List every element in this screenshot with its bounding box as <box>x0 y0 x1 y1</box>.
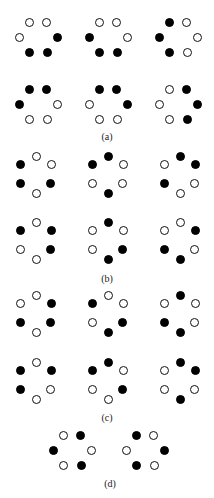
open-circle-icon <box>119 366 128 375</box>
open-circle-icon <box>32 189 41 198</box>
filled-circle-icon <box>95 85 104 94</box>
filled-circle-icon <box>165 48 174 57</box>
open-circle-icon <box>119 299 128 308</box>
filled-circle-icon <box>104 328 113 337</box>
open-circle-icon <box>149 431 158 440</box>
filled-circle-icon <box>113 48 122 57</box>
filled-circle-icon <box>193 100 202 109</box>
open-circle-icon <box>182 18 191 27</box>
filled-circle-icon <box>155 33 164 42</box>
filled-circle-icon <box>160 318 169 327</box>
filled-circle-icon <box>176 358 185 367</box>
filled-circle-icon <box>118 385 127 394</box>
open-circle-icon <box>32 358 41 367</box>
filled-circle-icon <box>165 18 174 27</box>
filled-circle-icon <box>43 48 52 57</box>
filled-circle-icon <box>104 189 113 198</box>
open-circle-icon <box>59 431 68 440</box>
filled-circle-icon <box>191 226 200 235</box>
filled-circle-icon <box>176 328 185 337</box>
group-label: (d) <box>104 478 116 489</box>
open-circle-icon <box>95 18 104 27</box>
filled-circle-icon <box>118 318 127 327</box>
open-circle-icon <box>88 245 97 254</box>
open-circle-icon <box>119 226 128 235</box>
filled-circle-icon <box>25 85 34 94</box>
open-circle-icon <box>123 33 132 42</box>
open-circle-icon <box>32 291 41 300</box>
open-circle-icon <box>32 255 41 264</box>
open-circle-icon <box>160 385 169 394</box>
group-label: (a) <box>101 131 112 142</box>
open-circle-icon <box>190 385 199 394</box>
filled-circle-icon <box>88 160 97 169</box>
filled-circle-icon <box>47 226 56 235</box>
filled-circle-icon <box>112 85 121 94</box>
open-circle-icon <box>165 115 174 124</box>
open-circle-icon <box>118 179 127 188</box>
filled-circle-icon <box>104 358 113 367</box>
figure-canvas: (a)(b)(c)(d) <box>0 0 214 498</box>
filled-circle-icon <box>182 85 191 94</box>
filled-circle-icon <box>47 299 56 308</box>
filled-circle-icon <box>85 33 94 42</box>
open-circle-icon <box>25 18 34 27</box>
open-circle-icon <box>160 366 169 375</box>
filled-circle-icon <box>15 100 24 109</box>
filled-circle-icon <box>16 226 25 235</box>
filled-circle-icon <box>95 48 104 57</box>
open-circle-icon <box>47 160 56 169</box>
filled-circle-icon <box>16 318 25 327</box>
filled-circle-icon <box>176 395 185 404</box>
open-circle-icon <box>59 461 68 470</box>
open-circle-icon <box>165 85 174 94</box>
filled-circle-icon <box>46 318 55 327</box>
open-circle-icon <box>183 48 192 57</box>
filled-circle-icon <box>88 299 97 308</box>
filled-circle-icon <box>46 245 55 254</box>
filled-circle-icon <box>16 385 25 394</box>
open-circle-icon <box>191 299 200 308</box>
open-circle-icon <box>88 226 97 235</box>
open-circle-icon <box>119 160 128 169</box>
open-circle-icon <box>150 461 159 470</box>
filled-circle-icon <box>46 179 55 188</box>
group-label: (b) <box>101 273 113 284</box>
filled-circle-icon <box>160 179 169 188</box>
open-circle-icon <box>88 318 97 327</box>
filled-circle-icon <box>132 431 141 440</box>
open-circle-icon <box>176 189 185 198</box>
filled-circle-icon <box>191 160 200 169</box>
open-circle-icon <box>16 299 25 308</box>
open-circle-icon <box>15 33 24 42</box>
filled-circle-icon <box>53 33 62 42</box>
filled-circle-icon <box>49 446 58 455</box>
filled-circle-icon <box>104 255 113 264</box>
open-circle-icon <box>85 100 94 109</box>
open-circle-icon <box>112 18 121 27</box>
open-circle-icon <box>88 385 97 394</box>
filled-circle-icon <box>88 366 97 375</box>
filled-circle-icon <box>160 245 169 254</box>
filled-circle-icon <box>132 461 141 470</box>
open-circle-icon <box>104 395 113 404</box>
filled-circle-icon <box>76 431 85 440</box>
open-circle-icon <box>87 446 96 455</box>
group-label: (c) <box>101 412 112 423</box>
filled-circle-icon <box>104 218 113 227</box>
filled-circle-icon <box>16 366 25 375</box>
filled-circle-icon <box>104 152 113 161</box>
open-circle-icon <box>32 395 41 404</box>
open-circle-icon <box>113 115 122 124</box>
open-circle-icon <box>190 179 199 188</box>
filled-circle-icon <box>183 115 192 124</box>
open-circle-icon <box>104 291 113 300</box>
filled-circle-icon <box>16 179 25 188</box>
filled-circle-icon <box>77 461 86 470</box>
filled-circle-icon <box>160 446 169 455</box>
open-circle-icon <box>160 226 169 235</box>
filled-circle-icon <box>176 152 185 161</box>
open-circle-icon <box>32 152 41 161</box>
open-circle-icon <box>176 218 185 227</box>
filled-circle-icon <box>42 85 51 94</box>
